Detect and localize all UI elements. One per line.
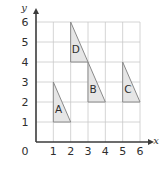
y-tick-label: 4 bbox=[22, 56, 29, 69]
y-tick-label: 5 bbox=[22, 36, 29, 49]
x-axis-label: x bbox=[153, 135, 159, 146]
x-tick-label: 1 bbox=[50, 145, 57, 158]
y-tick-label: 1 bbox=[22, 116, 29, 129]
triangle-shapes bbox=[53, 22, 140, 122]
coordinate-grid-figure: 0123456123456 ADBC x y bbox=[0, 0, 162, 174]
y-tick-label: 6 bbox=[22, 16, 29, 29]
triangle-label-d: D bbox=[72, 43, 80, 55]
x-tick-label: 6 bbox=[137, 145, 144, 158]
x-tick-label: 4 bbox=[102, 145, 109, 158]
x-tick-label: 3 bbox=[85, 145, 92, 158]
triangle-label-a: A bbox=[55, 103, 63, 115]
y-axis-label: y bbox=[20, 2, 27, 13]
y-tick-label: 3 bbox=[22, 76, 29, 89]
y-tick-label: 2 bbox=[22, 96, 29, 109]
triangle-label-b: B bbox=[90, 83, 97, 95]
triangle-label-c: C bbox=[124, 83, 131, 95]
x-tick-label: 2 bbox=[67, 145, 74, 158]
plot-area: 0123456123456 ADBC x y bbox=[0, 0, 162, 174]
origin-tick-label: 0 bbox=[22, 145, 29, 158]
y-axis-arrow-icon bbox=[33, 8, 39, 14]
x-tick-label: 5 bbox=[119, 145, 126, 158]
